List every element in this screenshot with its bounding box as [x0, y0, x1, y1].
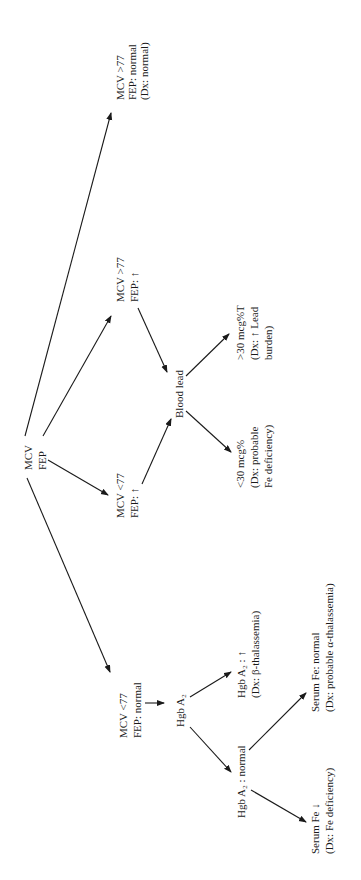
edge-root-to-mcv-lt77-fep-normal	[27, 478, 110, 672]
node-root-line-1: MCV	[22, 445, 34, 470]
edge-hgb-a2-to-up	[190, 672, 231, 697]
edge-root-to-mcv-lt77-fep-up	[48, 460, 108, 495]
node-serum-fe-normal: Serum Fe: normal (Dx: probable α-thalass…	[309, 583, 336, 712]
edge-fep-up-low-to-blood-lead	[142, 419, 171, 484]
node-line: >30 mcg%T	[234, 305, 246, 360]
node-lead-gt30: >30 mcg%T (Dx: ↑ Lead burden)	[234, 305, 275, 360]
node-line: FEP: normal	[126, 44, 138, 100]
node-mcv-gt77-fep-normal: MCV >77 FEP: normal (Dx: normal)	[114, 42, 151, 100]
node-line: FEP: normal	[131, 682, 143, 738]
node-line: Hgb A₂ : normal	[235, 745, 247, 818]
node-line: MCV >77	[114, 257, 126, 302]
edge-root-to-mcv-gt77-fep-up	[43, 316, 111, 436]
node-line: Serum Fe: normal	[309, 633, 321, 712]
edge-blood-lead-to-lt30	[186, 411, 231, 452]
node-hgb-a2-up: Hgb A₂ : ↑ (Dx: β-thalassemia)	[235, 611, 262, 698]
node-line: <30 mcg%	[234, 440, 246, 488]
node-line: Hgb A₂ : ↑	[235, 651, 247, 698]
node-line: (Dx: Fe deficiency)	[323, 768, 336, 854]
node-line: burden)	[262, 325, 275, 360]
edge-hgb-normal-to-serum-fe-normal	[249, 693, 306, 750]
node-line: (Dx: probable α-thalassemia)	[323, 583, 336, 712]
node-line: (Dx: normal)	[138, 42, 151, 100]
node-line: Serum Fe ↓	[309, 803, 321, 854]
node-line: Blood lead	[173, 370, 185, 418]
node-mcv-gt77-fep-up: MCV >77 FEP: ↑	[114, 257, 140, 302]
edge-hgb-a2-to-normal	[190, 727, 231, 772]
node-lead-lt30: <30 mcg% (Dx: probable Fe deficiency)	[234, 424, 275, 488]
node-serum-fe-down: Serum Fe ↓ (Dx: Fe deficiency)	[309, 768, 336, 854]
node-line: FEP: ↑	[128, 488, 140, 518]
node-line: (Dx: ↑ Lead	[248, 306, 261, 360]
diagnostic-flowchart: MCV FEP MCV >77 FEP: normal (Dx: normal)…	[0, 0, 361, 880]
node-hgb-a2-normal: Hgb A₂ : normal	[235, 745, 247, 818]
node-line: MCV <77	[114, 473, 126, 518]
edge-root-to-normal	[25, 113, 111, 436]
node-line: (Dx: probable	[248, 426, 261, 488]
node-root-line-2: FEP	[36, 451, 48, 470]
edge-fep-up-to-blood-lead	[138, 308, 167, 372]
node-line: (Dx: β-thalassemia)	[249, 611, 262, 698]
node-mcv-lt77-fep-normal: MCV <77 FEP: normal	[117, 682, 143, 738]
node-line: FEP: ↑	[128, 272, 140, 302]
edge-hgb-normal-to-serum-fe-down	[251, 790, 306, 822]
node-line: Fe deficiency)	[262, 424, 275, 488]
edge-blood-lead-to-gt30	[186, 334, 229, 376]
node-line: Hgb A₂	[174, 694, 186, 727]
node-root: MCV FEP	[22, 445, 48, 470]
node-hgb-a2: Hgb A₂	[174, 694, 186, 727]
node-mcv-lt77-fep-up: MCV <77 FEP: ↑	[114, 473, 140, 518]
node-line: MCV >77	[114, 55, 126, 100]
node-line: MCV <77	[117, 693, 129, 738]
node-blood-lead: Blood lead	[173, 370, 185, 418]
